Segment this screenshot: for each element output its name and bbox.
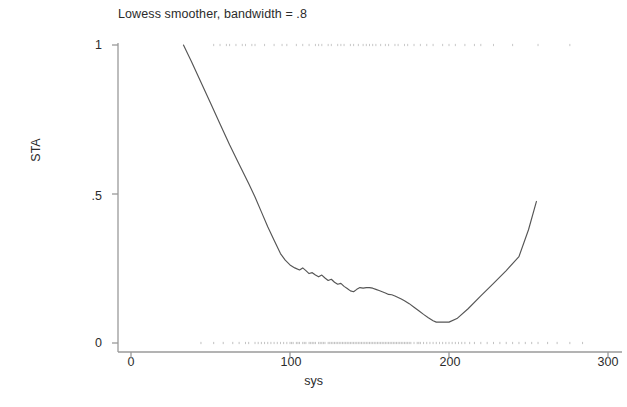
rug-marks-bottom: [201, 342, 583, 344]
axes-group: [112, 43, 622, 358]
rug-marks-top: [214, 44, 570, 46]
plot-area: [0, 0, 627, 407]
lowess-chart-figure: Lowess smoother, bandwidth = .8 STA sys …: [0, 0, 627, 407]
data-series-group: [183, 45, 536, 322]
series-line-0: [183, 45, 536, 322]
